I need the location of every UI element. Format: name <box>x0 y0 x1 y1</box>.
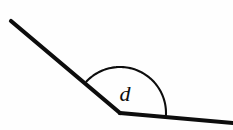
angle-diagram-svg: d <box>0 0 233 130</box>
angle-label: d <box>120 81 132 106</box>
angle-diagram: d <box>0 0 233 130</box>
